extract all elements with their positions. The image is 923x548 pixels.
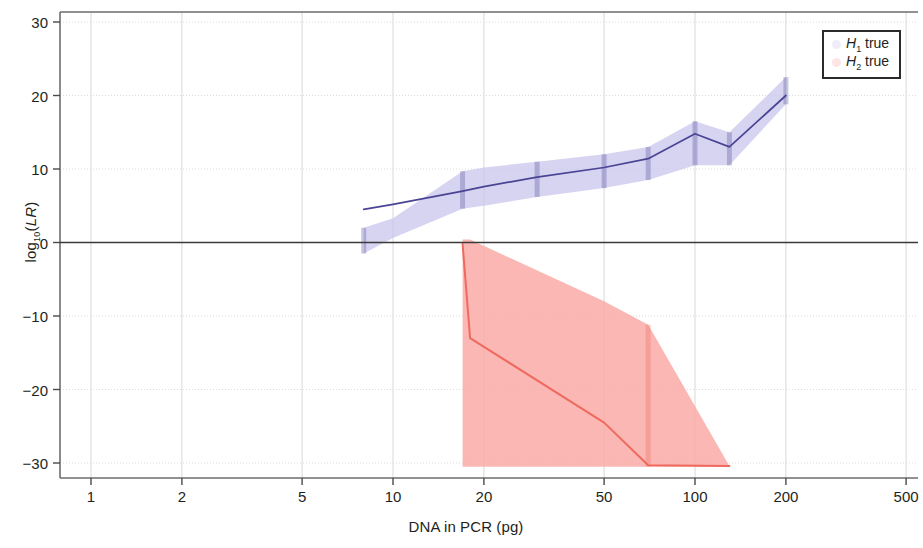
- series-band: [463, 240, 730, 467]
- legend-item-label: H2 true: [846, 54, 889, 72]
- x-axis-tick-label: 20: [454, 488, 514, 505]
- x-axis-tick-label: 500: [876, 488, 923, 505]
- x-axis-tick-label: 2: [152, 488, 212, 505]
- series-2: [463, 240, 730, 467]
- legend-item[interactable]: H2 true: [832, 54, 889, 72]
- y-axis-tick-label: −20: [2, 383, 48, 398]
- x-axis-tick-label: 100: [665, 488, 725, 505]
- legend-item[interactable]: H1 true: [832, 36, 889, 54]
- chart-legend: H1 trueH2 true: [822, 30, 901, 79]
- series-band: [364, 77, 786, 253]
- x-axis-tick-label: 5: [272, 488, 332, 505]
- legend-item-label: H1 true: [846, 36, 889, 54]
- y-axis-title-prefix: log: [22, 242, 39, 263]
- y-axis-tick-label: 20: [2, 89, 48, 104]
- x-axis-tick-label: 50: [574, 488, 634, 505]
- series-1: [364, 77, 786, 253]
- legend-hypothesis-suffix: true: [861, 53, 889, 69]
- y-axis-title-open-paren: (: [22, 226, 39, 231]
- legend-hypothesis-symbol: H: [846, 35, 856, 51]
- x-axis-title-text: DNA in PCR (pg): [409, 518, 524, 535]
- y-axis-title: log10(LR): [22, 172, 42, 292]
- y-axis-title-close-paren: ): [22, 201, 39, 206]
- x-axis-tick-label: 200: [756, 488, 816, 505]
- y-axis-tick-label: −10: [2, 309, 48, 324]
- legend-color-swatch: [832, 58, 841, 67]
- y-axis-title-subscript: 10: [32, 231, 42, 241]
- legend-hypothesis-symbol: H: [846, 53, 856, 69]
- legend-color-swatch: [832, 40, 841, 49]
- y-axis-tick-label: 30: [2, 15, 48, 30]
- x-axis-tick-label: 10: [363, 488, 423, 505]
- x-axis-title: DNA in PCR (pg): [0, 518, 918, 535]
- x-axis-tick-label: 1: [61, 488, 121, 505]
- legend-hypothesis-suffix: true: [861, 35, 889, 51]
- series-group: [364, 77, 786, 467]
- y-axis-title-variable: LR: [22, 207, 39, 227]
- y-axis-tick-label: −30: [2, 456, 48, 471]
